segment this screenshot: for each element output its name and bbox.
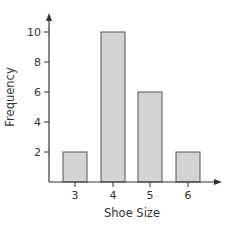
x-axis-label: Shoe Size: [104, 206, 160, 220]
y-tick-label: 4: [34, 116, 41, 129]
bar-size-3: [63, 152, 87, 182]
bar-size-4: [101, 32, 125, 182]
y-axis-ticks: 246810: [27, 26, 49, 159]
x-tick-label: 4: [110, 189, 117, 202]
y-tick-label: 8: [34, 56, 41, 69]
y-axis-arrow-icon: [46, 13, 52, 21]
x-axis-arrow-icon: [214, 179, 222, 185]
y-axis-label: Frequency: [3, 67, 17, 127]
x-tick-label: 6: [185, 189, 192, 202]
x-tick-label: 5: [147, 189, 154, 202]
y-tick-label: 6: [34, 86, 41, 99]
x-tick-label: 3: [72, 189, 79, 202]
bars: [63, 32, 200, 182]
y-tick-label: 2: [34, 146, 41, 159]
histogram-chart: 246810 3456 Shoe Size Frequency: [0, 0, 230, 230]
bar-size-6: [176, 152, 200, 182]
x-axis-ticks: 3456: [72, 182, 192, 202]
bar-size-5: [138, 92, 162, 182]
y-tick-label: 10: [27, 26, 41, 39]
